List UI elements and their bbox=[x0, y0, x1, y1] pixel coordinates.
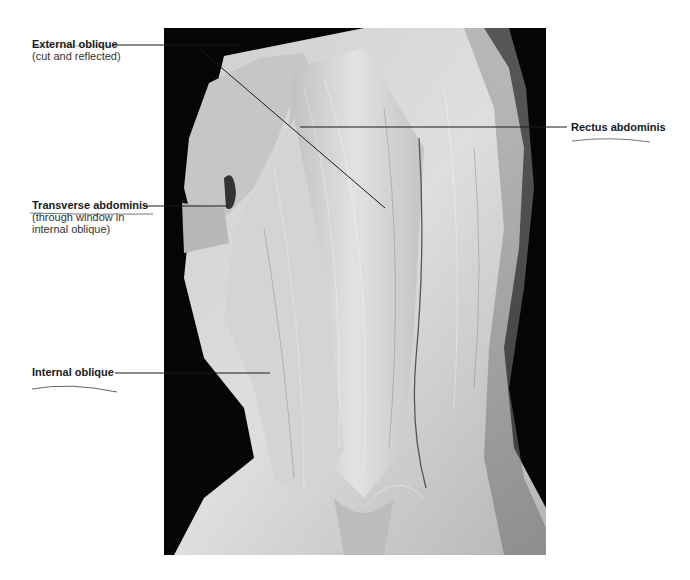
label-title: External oblique bbox=[32, 38, 118, 50]
label-external-oblique: External oblique (cut and reflected) bbox=[32, 38, 121, 62]
label-transverse-abdominis: Transverse abdominis (through window in … bbox=[32, 199, 148, 235]
label-note: (through window in bbox=[32, 211, 124, 223]
abdominal-wall-illustration bbox=[164, 28, 546, 555]
label-rectus-abdominis: Rectus abdominis bbox=[571, 121, 666, 133]
label-title: Rectus abdominis bbox=[571, 121, 666, 133]
label-note: (cut and reflected) bbox=[32, 50, 121, 62]
label-title: Internal oblique bbox=[32, 366, 114, 378]
label-note: internal oblique) bbox=[32, 223, 110, 235]
label-internal-oblique: Internal oblique bbox=[32, 366, 114, 378]
label-title: Transverse abdominis bbox=[32, 199, 148, 211]
dissection-photograph bbox=[164, 28, 546, 555]
